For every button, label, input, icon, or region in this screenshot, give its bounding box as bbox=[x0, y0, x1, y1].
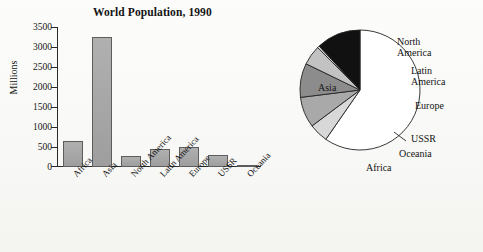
bar-asia bbox=[92, 37, 112, 167]
pie-chart-panel: World Population, 1990 Asia North Americ… bbox=[280, 0, 483, 252]
pie-slice-label-latin-america-line2: America bbox=[411, 76, 445, 87]
bar-chart-y-tick-labels: 3500 3000 2500 2000 1500 1000 500 0 bbox=[18, 0, 52, 252]
y-tick-3500: 3500 bbox=[18, 22, 52, 32]
pie-slice-label-north-america-line1: North bbox=[397, 36, 420, 47]
bar-chart-panel: World Population, 1990 Millions 3500 300… bbox=[0, 0, 280, 252]
pie-slice-label-latin-america-line1: Latin bbox=[411, 65, 432, 76]
y-tick-3000: 3000 bbox=[18, 42, 52, 52]
bar-chart-title: World Population, 1990 bbox=[93, 6, 212, 18]
pie-slice-label-asia: Asia bbox=[318, 82, 336, 93]
y-tick-1500: 1500 bbox=[18, 102, 52, 112]
y-tick-2500: 2500 bbox=[18, 62, 52, 72]
y-tick-2000: 2000 bbox=[18, 82, 52, 92]
y-tick-0: 0 bbox=[18, 162, 52, 172]
figure-world-population: World Population, 1990 Millions 3500 300… bbox=[0, 0, 483, 252]
y-tick-500: 500 bbox=[18, 142, 52, 152]
bar-chart-y-axis-title: Millions bbox=[8, 43, 19, 113]
pie-slice-label-oceania: Oceania bbox=[399, 148, 432, 159]
pie-slice-label-europe: Europe bbox=[415, 100, 444, 111]
y-tick-1000: 1000 bbox=[18, 122, 52, 132]
pie-slice-label-north-america-line2: America bbox=[397, 47, 431, 58]
pie-slice-label-ussr: USSR bbox=[411, 133, 436, 144]
pie-slice-label-africa: Africa bbox=[366, 162, 392, 173]
